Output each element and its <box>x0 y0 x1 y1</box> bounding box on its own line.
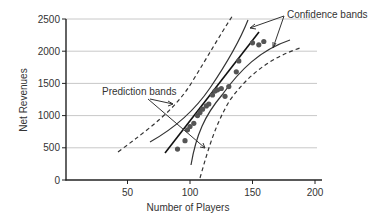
axes <box>66 19 323 181</box>
x-tick-100: 100 <box>182 187 199 198</box>
x-tick-labels: 50 100 150 200 <box>122 187 324 198</box>
y-axis-title: Net Revenues <box>18 68 29 131</box>
x-tick-150: 150 <box>244 187 261 198</box>
prediction-band-lower <box>200 48 300 178</box>
y-tick-0: 0 <box>54 175 60 186</box>
confidence-arrows <box>250 16 284 48</box>
data-points <box>175 39 267 152</box>
x-tick-200: 200 <box>307 187 324 198</box>
confidence-bands-label: Confidence bands <box>287 9 368 20</box>
y-tick-2500: 2500 <box>38 14 61 25</box>
x-axis-title: Number of Players <box>147 202 230 213</box>
y-tick-1500: 1500 <box>38 78 61 89</box>
y-tick-labels: 0 500 1000 1500 2000 2500 <box>38 14 61 186</box>
regression-chart: 0 500 1000 1500 2000 2500 50 100 150 200… <box>0 0 378 220</box>
prediction-arrows <box>148 99 205 148</box>
y-tick-1000: 1000 <box>38 110 61 121</box>
y-tick-500: 500 <box>43 142 60 153</box>
x-tick-50: 50 <box>122 187 134 198</box>
y-tick-2000: 2000 <box>38 46 61 57</box>
prediction-bands-label: Prediction bands <box>102 86 177 97</box>
